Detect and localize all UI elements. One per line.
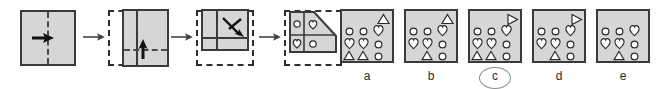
option-a-label: a bbox=[340, 69, 394, 83]
sequence-arrow-2 bbox=[170, 30, 194, 44]
sequence-arrow-1 bbox=[82, 30, 106, 44]
option-d-hole-r2c1-triangle-icon bbox=[549, 50, 561, 61]
option-c-hole-r1c0-heart-icon bbox=[471, 37, 484, 50]
option-d-hole-r2c2-circle-icon bbox=[566, 52, 575, 61]
punched-stack-shape bbox=[288, 10, 338, 54]
option-d-hole-r0c0-circle-icon bbox=[537, 27, 546, 36]
option-d-hole-r0c1-circle-icon bbox=[551, 27, 560, 36]
option-c-hole-r2c2-circle-icon bbox=[502, 52, 511, 61]
option-e-hole-r2c1-triangle-icon bbox=[613, 50, 625, 61]
option-a-hole-r0c0-circle-icon bbox=[345, 27, 354, 36]
option-b-hole-r2c2-circle-icon bbox=[438, 52, 447, 61]
fold-arrow-up-step-2 bbox=[136, 38, 150, 60]
option-c-hole-r1c1-heart-icon bbox=[485, 37, 498, 50]
option-a-hole-r2c1-triangle-icon bbox=[357, 50, 369, 61]
paper-folding-question: a b bbox=[0, 0, 667, 89]
option-b-hole-r0c2-heart-icon bbox=[436, 24, 449, 37]
option-a-hole-r2c2-circle-icon bbox=[374, 52, 383, 61]
option-b-hole-r1c0-heart-icon bbox=[407, 37, 420, 50]
fold-step-4 bbox=[284, 10, 342, 66]
option-a-hole-r0c2-heart-icon bbox=[372, 24, 385, 37]
option-e-hole-r0c2-heart-icon bbox=[628, 24, 641, 37]
option-a-hole-r1c0-heart-icon bbox=[343, 37, 356, 50]
option-c-hole-r0c0-circle-icon bbox=[473, 27, 482, 36]
fold-step-2 bbox=[108, 10, 166, 66]
option-c-label: c bbox=[468, 69, 522, 83]
fold-arrow-right-step-1 bbox=[30, 30, 56, 46]
option-c-hole-r2c1-triangle-icon bbox=[485, 50, 497, 61]
option-c-hole-r2c0-triangle-icon bbox=[471, 50, 483, 61]
option-b-hole-r1c1-heart-icon bbox=[421, 37, 434, 50]
option-d-hole-r1c0-heart-icon bbox=[535, 37, 548, 50]
option-b-hole-r0c1-circle-icon bbox=[423, 27, 432, 36]
option-a-hole-r0c1-circle-icon bbox=[359, 27, 368, 36]
option-e-hole-r1c0-heart-icon bbox=[599, 37, 612, 50]
option-d-label: d bbox=[532, 69, 586, 83]
sequence-arrow-3 bbox=[258, 30, 282, 44]
option-a-hole-r1c1-heart-icon bbox=[357, 37, 370, 50]
fold-step-3 bbox=[196, 10, 254, 66]
option-a-hole-r2c0-triangle-icon bbox=[343, 50, 355, 61]
option-e-hole-r2c2-circle-icon bbox=[630, 52, 639, 61]
option-c-hole-r0c1-circle-icon bbox=[487, 27, 496, 36]
option-e-hole-r0c1-circle-icon bbox=[615, 27, 624, 36]
option-e-label: e bbox=[596, 69, 650, 83]
crease-vertical-step-3 bbox=[216, 11, 218, 49]
option-b-hole-r1c2-circle-icon bbox=[438, 40, 447, 49]
option-b-label: b bbox=[404, 69, 458, 83]
option-d-hole-r1c1-heart-icon bbox=[549, 37, 562, 50]
option-c-hole-r0c2-heart-icon bbox=[500, 24, 513, 37]
option-e-hole-r0c0-circle-icon bbox=[601, 27, 610, 36]
option-a-hole-r1c2-circle-icon bbox=[374, 40, 383, 49]
option-e-hole-r1c2-circle-icon bbox=[630, 40, 639, 49]
option-c-hole-r1c2-circle-icon bbox=[502, 40, 511, 49]
option-b-hole-r2c1-triangle-icon bbox=[421, 50, 433, 61]
fold-step-1 bbox=[20, 10, 76, 66]
option-b-hole-r0c0-circle-icon bbox=[409, 27, 418, 36]
fold-arrow-diagonal-step-3 bbox=[220, 15, 246, 41]
option-e-hole-r1c1-heart-icon bbox=[613, 37, 626, 50]
option-d-hole-r0c2-heart-icon bbox=[564, 24, 577, 37]
option-d-hole-r1c2-circle-icon bbox=[566, 40, 575, 49]
